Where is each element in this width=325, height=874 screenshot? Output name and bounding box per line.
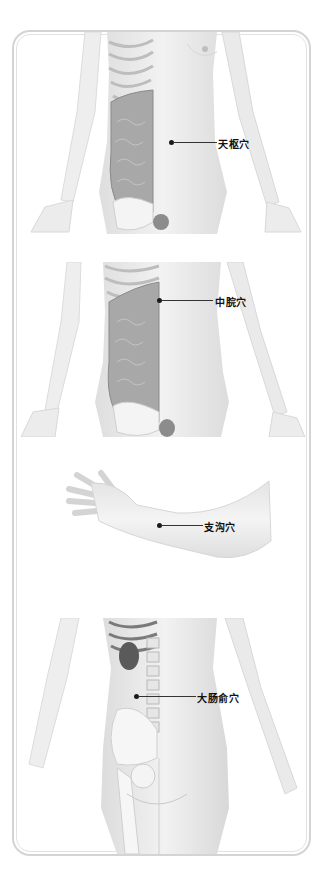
front-torso-illustration	[17, 32, 306, 234]
panel-zhongwan: 中脘穴	[17, 262, 306, 437]
acupoint-label: 大肠俞穴	[197, 690, 239, 705]
panel-tianshu: 天枢穴	[17, 32, 306, 234]
back-view-illustration	[17, 618, 306, 854]
forearm-illustration	[17, 465, 306, 575]
panel-zhigou: 支沟穴	[17, 465, 306, 575]
leader-line	[161, 525, 203, 526]
acupoint-label: 天枢穴	[218, 136, 250, 151]
acupoint-label: 支沟穴	[204, 519, 236, 534]
acupoint-label: 中脘穴	[215, 294, 247, 309]
leader-line	[173, 142, 217, 143]
front-torso-illustration	[17, 262, 306, 437]
panel-dachangshu: 大肠俞穴	[17, 618, 306, 854]
leader-line	[138, 696, 196, 697]
leader-line	[161, 300, 213, 301]
